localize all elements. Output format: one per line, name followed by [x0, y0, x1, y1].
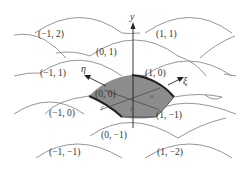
cell-label: (0, −1): [101, 130, 127, 141]
region-label-a: a: [150, 92, 154, 100]
cell-label: (−1, 2): [38, 29, 64, 40]
lattice-arc: [178, 118, 226, 138]
lattice-arc: [178, 56, 206, 76]
lattice-arc: [56, 52, 90, 56]
cell-label: (1, −1): [156, 110, 182, 121]
lattice-arc: [122, 33, 140, 34]
lattice-arc: [174, 95, 222, 98]
cell-label: (−1, 0): [49, 108, 75, 119]
cell-label: (1, 1): [156, 29, 177, 40]
y-axis-label: y: [129, 11, 135, 22]
eta-axis-label: η: [81, 63, 86, 74]
cell-label: (0, 1): [96, 47, 117, 58]
xi-axis-label: ξ: [183, 75, 188, 87]
cell-label: (0, 0): [95, 89, 116, 100]
cell-label: (1, 0): [145, 68, 166, 79]
cell-label: (1, −2): [157, 147, 183, 158]
xi-axis: [168, 79, 180, 85]
cell-label: (−1, 1): [40, 68, 66, 79]
lattice-diagram: y ξ η a b c (−1, 2) (1, 1) (0, 1) (−1, 1…: [0, 0, 246, 169]
region-label-b: b: [130, 105, 134, 113]
y-axis-arrow-icon: [131, 22, 136, 29]
cell-label: (−1, −1): [49, 147, 80, 158]
lattice-arc: [200, 36, 235, 58]
lattice-arc: [14, 73, 40, 76]
eta-axis: [88, 77, 106, 86]
